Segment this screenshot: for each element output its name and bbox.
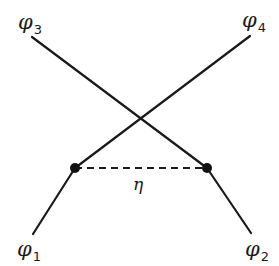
right-vertex-dot bbox=[202, 163, 212, 173]
phi3-line bbox=[32, 37, 207, 168]
phi4-subscript: 4 bbox=[258, 20, 266, 35]
phi1-subscript: 1 bbox=[33, 249, 41, 264]
phi1-line bbox=[33, 168, 75, 234]
phi2-symbol: φ bbox=[245, 237, 260, 261]
phi2-subscript: 2 bbox=[261, 249, 269, 264]
phi4-line bbox=[75, 36, 250, 168]
phi3-symbol: φ bbox=[18, 10, 33, 34]
vertex-diagram bbox=[0, 0, 279, 266]
phi2-line bbox=[207, 168, 251, 233]
label-eta: η bbox=[133, 176, 143, 193]
phi4-symbol: φ bbox=[242, 8, 257, 32]
label-phi2: φ2 bbox=[245, 239, 269, 260]
left-vertex-dot bbox=[70, 163, 80, 173]
label-phi3: φ3 bbox=[18, 12, 42, 33]
phi3-subscript: 3 bbox=[34, 22, 42, 37]
phi1-symbol: φ bbox=[17, 237, 32, 261]
label-phi4: φ4 bbox=[242, 10, 266, 31]
label-phi1: φ1 bbox=[17, 239, 41, 260]
